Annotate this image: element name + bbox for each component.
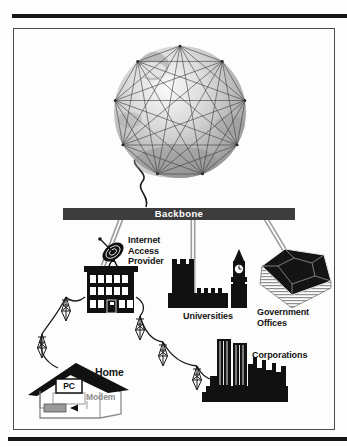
computer-case-icon (53, 393, 85, 404)
globe-icon (114, 45, 247, 178)
government-offices-label: Government Offices (257, 307, 309, 328)
diagram-canvas (0, 0, 347, 447)
office-building-icon (84, 266, 138, 313)
bottom-rule (8, 437, 347, 441)
city-skyline-icon (202, 339, 288, 402)
modem-box-icon (44, 404, 66, 412)
isp-label: Internet Access Provider (128, 235, 164, 267)
backbone-link-government (266, 219, 287, 254)
telephone-pole-icon (62, 297, 71, 321)
telephone-pole-icon (159, 342, 168, 366)
modem-label: Modem (86, 392, 115, 403)
telephone-pole-icon (136, 316, 145, 340)
telephone-pole-icon (38, 334, 47, 358)
university-building-icon (168, 249, 247, 308)
backbone-bar: Backbone (63, 208, 295, 220)
pentagon-building-icon (260, 249, 331, 308)
network-diagram: Backbone Internet Access Provider Univer… (0, 0, 347, 447)
corporations-label: Corporations (252, 350, 307, 361)
home-label: Home (95, 367, 124, 378)
universities-label: Universities (163, 311, 253, 322)
pc-label: PC (56, 381, 82, 392)
telephone-pole-icon (193, 366, 202, 390)
